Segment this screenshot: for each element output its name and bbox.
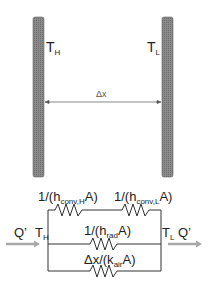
hot-plate xyxy=(33,17,44,177)
gap-label: Δx xyxy=(96,90,107,99)
gap-dimension-arrow xyxy=(45,101,161,104)
resistor-rad-label: 1/(hradA) xyxy=(84,224,131,240)
heat-in-label: Q’ xyxy=(14,226,27,239)
cold-plate xyxy=(162,17,173,177)
hot-plate-temp-label: TH xyxy=(46,40,60,57)
resistor-air-label: Δx/(kairA) xyxy=(84,253,136,269)
cold-plate-temp-label: TL xyxy=(147,40,160,57)
resistor-conv-h-label: 1/(hconv,HA) xyxy=(38,190,98,206)
heat-out-label: Q’ xyxy=(178,226,191,239)
diagram-canvas xyxy=(0,0,210,285)
resistor-conv-l-label: 1/(hconv,LA) xyxy=(114,190,172,206)
left-node-temp-label: TH xyxy=(35,226,49,242)
right-node-temp-label: TL xyxy=(162,226,174,242)
